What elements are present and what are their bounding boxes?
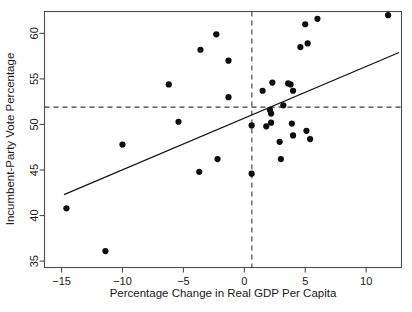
data-point bbox=[102, 248, 108, 254]
data-point bbox=[302, 21, 308, 27]
data-point bbox=[196, 169, 202, 175]
data-point bbox=[249, 171, 255, 177]
y-axis-title: Incumbent-Party Vote Percentage bbox=[4, 53, 16, 226]
x-tick-label: −15 bbox=[52, 275, 71, 287]
figure-background bbox=[0, 0, 412, 312]
x-axis-title: Percentage Change in Real GDP Per Capita bbox=[110, 287, 337, 299]
scatter-plot-figure: −15−10−50510 354045505560 Percentage Cha… bbox=[0, 0, 412, 312]
data-point bbox=[314, 16, 320, 22]
x-tick-label: −5 bbox=[177, 275, 190, 287]
x-tick-label: 10 bbox=[360, 275, 372, 287]
data-point bbox=[197, 47, 203, 53]
x-tick-label: 0 bbox=[241, 275, 247, 287]
data-point bbox=[290, 132, 296, 138]
data-point bbox=[269, 79, 275, 85]
data-point bbox=[277, 139, 283, 145]
y-tick-label: 55 bbox=[29, 73, 41, 85]
y-tick-label: 45 bbox=[29, 164, 41, 176]
y-tick-label: 60 bbox=[29, 27, 41, 39]
data-point bbox=[225, 94, 231, 100]
data-point bbox=[307, 136, 313, 142]
y-tick-label: 35 bbox=[29, 255, 41, 267]
data-point bbox=[278, 156, 284, 162]
x-tick-label: −10 bbox=[113, 275, 132, 287]
data-point bbox=[166, 81, 172, 87]
data-point bbox=[280, 102, 286, 108]
data-point bbox=[63, 205, 69, 211]
data-point bbox=[305, 40, 311, 46]
data-point bbox=[288, 81, 294, 87]
data-point bbox=[290, 88, 296, 94]
data-point bbox=[213, 31, 219, 37]
y-tick-label: 50 bbox=[29, 118, 41, 130]
y-tick-label: 40 bbox=[29, 209, 41, 221]
data-point bbox=[175, 119, 181, 125]
data-point bbox=[289, 120, 295, 126]
data-point bbox=[214, 156, 220, 162]
x-tick-label: 5 bbox=[302, 275, 308, 287]
data-point bbox=[259, 88, 265, 94]
data-point bbox=[268, 110, 274, 116]
data-point bbox=[303, 128, 309, 134]
data-point bbox=[385, 12, 391, 18]
data-point bbox=[225, 58, 231, 64]
plot-canvas: −15−10−50510 354045505560 Percentage Cha… bbox=[0, 0, 412, 312]
data-point bbox=[268, 120, 274, 126]
data-point bbox=[297, 44, 303, 50]
data-point bbox=[119, 141, 125, 147]
data-point bbox=[249, 122, 255, 128]
